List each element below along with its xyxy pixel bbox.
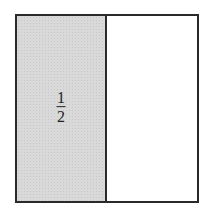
shaded-half: 1 2 xyxy=(17,16,107,201)
fraction-bar xyxy=(57,106,66,107)
unshaded-half xyxy=(107,16,197,201)
fraction-label: 1 2 xyxy=(57,90,66,124)
denominator: 2 xyxy=(57,109,65,124)
numerator: 1 xyxy=(57,90,65,105)
fraction-square: 1 2 xyxy=(15,14,199,203)
